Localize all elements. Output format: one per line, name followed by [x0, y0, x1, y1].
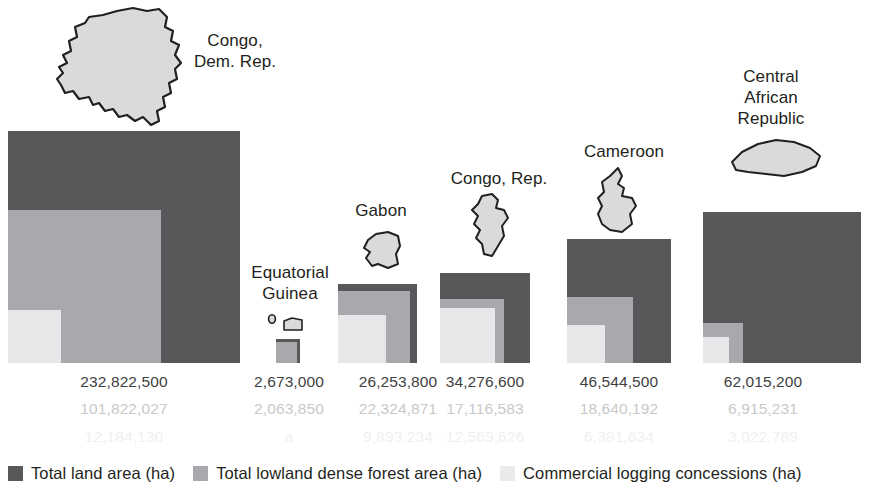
value-total-land-area-congo-rep: 34,276,600	[426, 373, 544, 390]
square-logging-concessions	[8, 310, 61, 363]
value-logging-concessions-cameroon: 6,381,634	[558, 428, 680, 445]
square-logging-concessions	[567, 325, 605, 363]
area-squares-congo-rep	[440, 273, 530, 363]
country-label-congo-rep: Congo, Rep.	[434, 168, 564, 189]
area-squares-central-african-republic	[703, 212, 861, 363]
map-silhouette-central-african-republic	[722, 132, 826, 186]
legend-label-total-land-area: Total land area (ha)	[31, 464, 175, 483]
map-silhouette-equatorial-guinea	[266, 312, 306, 334]
value-logging-concessions-congo-dem-rep: 12,184,130	[34, 428, 214, 445]
area-squares-equatorial-guinea	[276, 339, 300, 363]
area-squares-congo-dem-rep	[8, 131, 240, 363]
legend-item-total-lowland-dense-forest-area: Total lowland dense forest area (ha)	[193, 464, 482, 483]
country-label-congo-dem-rep: Congo, Dem. Rep.	[170, 30, 300, 72]
value-lowland-forest-equatorial-guinea: 2,063,850	[236, 400, 342, 417]
value-lowland-forest-congo-dem-rep: 101,822,027	[34, 400, 214, 417]
legend-item-total-land-area: Total land area (ha)	[8, 464, 175, 483]
legend-label-total-lowland-dense-forest-area: Total lowland dense forest area (ha)	[216, 464, 482, 483]
legend-swatch-total-land-area	[8, 466, 23, 481]
country-label-cameroon: Cameroon	[557, 141, 691, 162]
value-logging-concessions-central-african-republic: 3,022,789	[700, 428, 826, 445]
map-silhouette-cameroon	[592, 166, 644, 238]
value-total-land-area-equatorial-guinea: 2,673,000	[236, 373, 342, 390]
value-total-land-area-congo-dem-rep: 232,822,500	[34, 373, 214, 390]
legend-swatch-total-lowland-dense-forest-area	[193, 466, 208, 481]
value-logging-concessions-equatorial-guinea: a	[236, 428, 342, 445]
area-squares-cameroon	[567, 239, 671, 363]
value-total-land-area-cameroon: 46,544,500	[558, 373, 680, 390]
area-squares-gabon	[338, 284, 417, 363]
legend: Total land area (ha) Total lowland dense…	[0, 458, 872, 488]
value-lowland-forest-cameroon: 18,640,192	[558, 400, 680, 417]
value-lowland-forest-congo-rep: 17,116,583	[426, 400, 544, 417]
map-silhouette-congo-rep	[466, 192, 512, 260]
square-logging-concessions	[440, 308, 495, 363]
legend-swatch-commercial-logging-concessions	[500, 466, 515, 481]
value-total-land-area-central-african-republic: 62,015,200	[700, 373, 826, 390]
legend-label-commercial-logging-concessions: Commercial logging concessions (ha)	[523, 464, 802, 483]
map-silhouette-gabon	[358, 226, 406, 272]
square-logging-concessions	[703, 337, 729, 363]
square-logging-concessions	[338, 315, 386, 363]
value-lowland-forest-central-african-republic: 6,915,231	[700, 400, 826, 417]
country-label-central-african-republic: Central African Republic	[700, 66, 842, 129]
square-lowland-forest-area	[276, 342, 297, 363]
country-label-gabon: Gabon	[333, 200, 429, 221]
infographic-canvas: Congo, Dem. Rep. 232,822,500 101,822,027…	[0, 0, 872, 488]
legend-item-commercial-logging-concessions: Commercial logging concessions (ha)	[500, 464, 802, 483]
value-logging-concessions-congo-rep: 12,569,626	[426, 428, 544, 445]
country-label-equatorial-guinea: Equatorial Guinea	[240, 262, 340, 304]
